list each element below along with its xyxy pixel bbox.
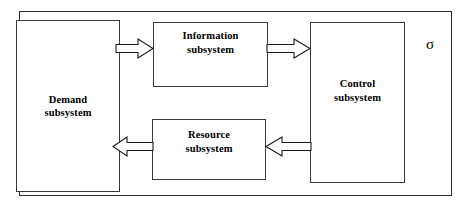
arrow-control-to-resource-icon bbox=[265, 136, 311, 157]
block-information-subsystem-label: Information subsystem bbox=[183, 29, 239, 56]
block-control-subsystem[interactable]: Control subsystem bbox=[310, 22, 405, 183]
block-information-subsystem[interactable]: Information subsystem bbox=[153, 22, 268, 87]
block-demand-subsystem[interactable]: Demand subsystem bbox=[16, 20, 120, 192]
arrow-demand-to-information-icon bbox=[116, 38, 154, 59]
arrow-information-to-control-icon bbox=[267, 38, 311, 59]
block-resource-subsystem-label: Resource subsystem bbox=[186, 128, 233, 155]
block-control-subsystem-label: Control subsystem bbox=[334, 77, 381, 104]
sigma-annotation-label: σ bbox=[421, 36, 439, 53]
diagram-canvas: σ Demand subsystem Information subsystem… bbox=[0, 0, 465, 215]
arrow-resource-to-demand-icon bbox=[112, 136, 153, 157]
block-demand-subsystem-label: Demand subsystem bbox=[45, 93, 92, 120]
block-resource-subsystem[interactable]: Resource subsystem bbox=[152, 119, 266, 180]
